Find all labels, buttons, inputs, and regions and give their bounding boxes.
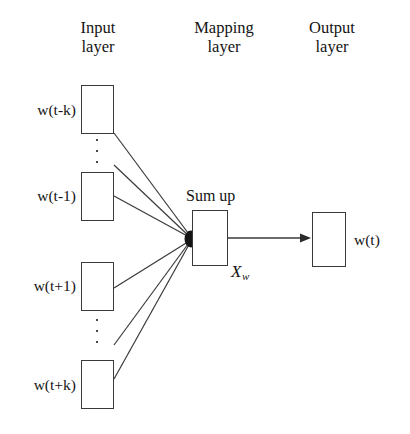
input-node-label-1: w(t-k) [6,102,76,118]
wire-ellipsis-lower-to-sum [114,240,191,345]
input-node-label-4: w(t+k) [2,377,76,393]
input-node-label-2: w(t-1) [6,188,76,204]
ellipsis-dot [96,330,98,332]
input-node-box-2[interactable] [81,172,114,221]
input-node-box-4[interactable] [81,360,114,409]
ellipsis-dot [96,341,98,343]
mapping-node-box[interactable] [192,210,228,266]
xw-subscript: w [242,270,249,282]
input-node-box-3[interactable] [81,262,114,311]
output-node-label: w(t) [354,231,380,249]
input-node-label-3: w(t+1) [2,278,76,294]
sum-up-caption: Sum up [186,187,235,205]
ellipsis-dot [96,139,98,141]
arrowhead-icon [300,234,311,243]
xw-annotation: Xw [231,262,249,282]
input-node-box-1[interactable] [81,85,114,134]
input-ellipsis-upper [94,139,100,163]
xw-base: X [231,262,241,281]
ellipsis-dot [96,319,98,321]
output-node-box[interactable] [312,212,346,267]
wire-input-1-to-sum [114,133,191,237]
ellipsis-dot [96,161,98,163]
diagram-canvas: Input layer Mapping layer Output layer w… [0,0,410,434]
wire-ellipsis-upper-to-sum [114,165,191,238]
input-ellipsis-lower [94,319,100,343]
wire-input-4-to-sum [114,241,191,379]
wire-input-3-to-sum [114,240,191,288]
ellipsis-dot [96,150,98,152]
